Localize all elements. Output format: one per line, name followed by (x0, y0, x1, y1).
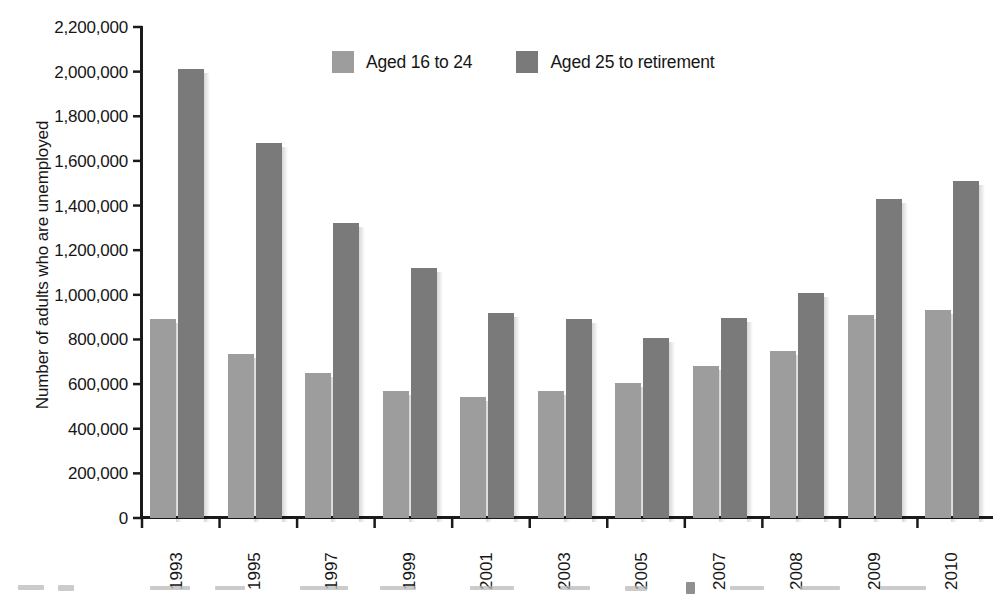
legend-entry-adult: Aged 25 to retirement (516, 51, 714, 73)
bar-adult (333, 223, 359, 518)
bar-group (607, 27, 685, 518)
legend-swatch-adult-icon (516, 51, 538, 73)
bar-young (460, 397, 486, 518)
bar-adult (798, 293, 824, 518)
bar-group (530, 27, 608, 518)
bar-young (228, 354, 254, 518)
bar-adult (178, 69, 204, 518)
bar-adult (876, 199, 902, 518)
legend-label-adult: Aged 25 to retirement (550, 53, 714, 71)
bar-group (840, 27, 918, 518)
chart-legend: Aged 16 to 24 Aged 25 to retirement (332, 51, 714, 73)
bar-group (375, 27, 453, 518)
bar-young (770, 351, 796, 518)
bar-group (220, 27, 298, 518)
bar-adult (643, 338, 669, 518)
bar-adult (411, 268, 437, 518)
bar-adult (488, 313, 514, 518)
bar-group (917, 27, 993, 518)
bar-group (762, 27, 840, 518)
bar-adult (566, 319, 592, 518)
bar-young (925, 310, 951, 518)
bar-adult (256, 143, 282, 518)
bar-young (150, 319, 176, 518)
bar-young (383, 391, 409, 518)
bar-young (538, 391, 564, 518)
bar-group (142, 27, 220, 518)
bar-young (848, 315, 874, 518)
bar-adult (953, 181, 979, 518)
legend-entry-young: Aged 16 to 24 (332, 51, 472, 73)
bar-group (297, 27, 375, 518)
bar-group (452, 27, 530, 518)
legend-swatch-young-icon (332, 51, 354, 73)
bar-young (693, 366, 719, 518)
legend-label-young: Aged 16 to 24 (366, 53, 472, 71)
bar-chart: Number of adults who are unemployed 2,20… (0, 0, 993, 596)
bar-group (685, 27, 763, 518)
scan-artifacts (0, 578, 993, 596)
bar-adult (721, 318, 747, 518)
plot-area (142, 27, 993, 518)
bar-young (615, 383, 641, 518)
bar-young (305, 373, 331, 518)
